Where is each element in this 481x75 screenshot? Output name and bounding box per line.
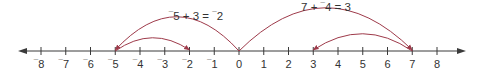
jump-arc <box>115 38 189 51</box>
right-arrow-icon <box>457 48 466 54</box>
tick-number: 8 <box>38 58 44 70</box>
number-line-axis <box>18 48 466 54</box>
equation-labels: ¯5 + 3 = ¯27 + ¯4 = 3 <box>168 1 351 22</box>
equation-label-right: 7 + ¯4 = 3 <box>301 1 351 13</box>
left-arrow-icon <box>18 48 27 54</box>
tick-number: 7 <box>63 58 69 70</box>
tick-label: 5 <box>360 58 366 70</box>
tick-label: 0 <box>236 58 242 70</box>
tick-labels: ¯8¯7¯6¯5¯4¯3¯2¯1012345678 <box>33 58 440 70</box>
tick-label: 2 <box>285 58 291 70</box>
tick-label: 6 <box>384 58 390 70</box>
equation-part: 2 <box>217 10 223 22</box>
tick-label: ¯2 <box>181 58 193 70</box>
tick-label: 1 <box>261 58 267 70</box>
tick-number: 3 <box>162 58 168 70</box>
jump-arcs <box>115 8 412 51</box>
tick-number: 1 <box>211 58 217 70</box>
tick-number: 4 <box>137 58 143 70</box>
tick-label: ¯7 <box>57 58 69 70</box>
equation-part: 5 + 3 = <box>173 10 212 22</box>
number-line-diagram: ¯8¯7¯6¯5¯4¯3¯2¯1012345678 ¯5 + 3 = ¯27 +… <box>0 0 481 75</box>
tick-label: ¯5 <box>107 58 119 70</box>
equation-label-left: ¯5 + 3 = ¯2 <box>168 10 223 22</box>
tick-label: ¯8 <box>33 58 45 70</box>
tick-number: 6 <box>88 58 94 70</box>
tick-label: 4 <box>335 58 341 70</box>
tick-number: 5 <box>112 58 118 70</box>
jump-arc <box>239 8 412 51</box>
tick-label: 8 <box>434 58 440 70</box>
tick-label: 7 <box>409 58 415 70</box>
tick-label: ¯4 <box>132 58 144 70</box>
tick-label: 3 <box>310 58 316 70</box>
tick-label: ¯3 <box>156 58 168 70</box>
equation-part: 7 + <box>301 1 321 13</box>
tick-label: ¯6 <box>82 58 94 70</box>
tick-number: 2 <box>187 58 193 70</box>
equation-part: 4 = 3 <box>325 1 351 13</box>
tick-label: ¯1 <box>206 58 218 70</box>
